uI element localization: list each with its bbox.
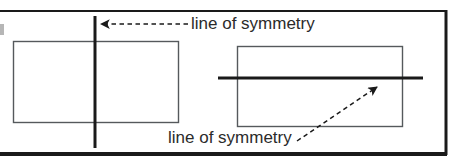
symmetry-figure: line of symmetry line of symmetry bbox=[0, 0, 459, 164]
bottom-pointer-arrow bbox=[297, 87, 377, 141]
top-symmetry-label: line of symmetry bbox=[191, 14, 315, 34]
bottom-symmetry-label: line of symmetry bbox=[168, 128, 292, 148]
right-rectangle bbox=[238, 47, 403, 127]
